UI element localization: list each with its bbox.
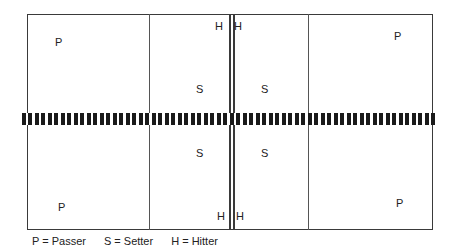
- legend-passer: P = Passer: [32, 235, 86, 247]
- player-bottom-right-setter: S: [261, 148, 268, 159]
- player-top-left-setter: S: [196, 84, 203, 95]
- net: [22, 113, 438, 125]
- player-bottom-right-hitter: H: [236, 211, 244, 222]
- player-bottom-left-setter: S: [196, 148, 203, 159]
- player-bottom-left-hitter: H: [217, 211, 225, 222]
- legend-setter: S = Setter: [104, 235, 153, 247]
- volleyball-court-diagram: P H S H S P S P H S H P P = Passer S = S…: [0, 0, 454, 251]
- player-bottom-left-passer: P: [58, 202, 65, 213]
- player-bottom-right-passer: P: [396, 198, 403, 209]
- player-top-right-passer: P: [394, 31, 401, 42]
- player-top-right-hitter: H: [234, 21, 242, 32]
- player-top-left-passer: P: [55, 37, 62, 48]
- legend: P = Passer S = Setter H = Hitter: [32, 235, 218, 247]
- player-top-left-hitter: H: [215, 21, 223, 32]
- player-top-right-setter: S: [261, 84, 268, 95]
- legend-hitter: H = Hitter: [171, 235, 218, 247]
